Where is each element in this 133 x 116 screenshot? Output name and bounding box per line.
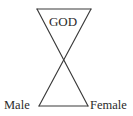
female-label: Female [90, 98, 127, 112]
hourglass-triangle-figure: GOD Male Female [0, 0, 133, 116]
god-label: GOD [49, 14, 77, 29]
male-label: Male [4, 98, 30, 112]
diagram-canvas: GOD Male Female [0, 0, 133, 116]
